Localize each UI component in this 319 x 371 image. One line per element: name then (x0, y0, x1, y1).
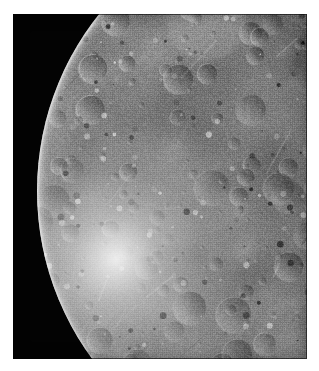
moon-disc (37, 14, 307, 359)
image-canvas: Cratered icy moon limb against black spa… (0, 0, 319, 371)
photograph-plate (13, 14, 307, 359)
film-grain (37, 14, 307, 359)
